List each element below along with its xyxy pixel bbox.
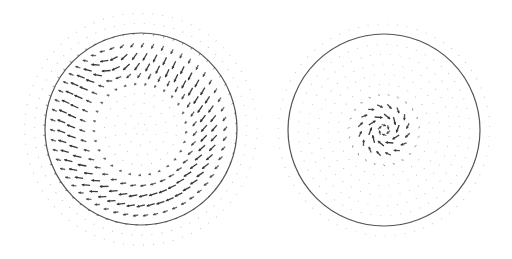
vector-arrow <box>387 34 388 35</box>
vector-arrow <box>390 195 391 196</box>
vector-field-figure <box>0 0 512 259</box>
vector-arrow <box>449 126 450 127</box>
vector-arrows <box>278 24 490 236</box>
vector-arrow <box>407 27 408 28</box>
vector-arrow <box>278 128 279 129</box>
vector-arrow <box>366 159 367 161</box>
vector-arrow <box>374 163 375 165</box>
vector-arrow <box>389 84 390 85</box>
vector-arrow <box>379 185 380 186</box>
arrow-head-icon <box>403 118 406 121</box>
vector-arrow <box>377 205 378 206</box>
vector-arrow <box>370 225 371 226</box>
vector-arrow <box>479 133 480 134</box>
vector-arrow <box>488 146 489 147</box>
vector-arrow <box>368 204 369 205</box>
vector-arrow <box>418 136 420 138</box>
vector-arrow <box>385 236 386 237</box>
vector-arrow <box>380 54 381 55</box>
vector-arrow <box>459 136 460 137</box>
vector-arrow <box>419 126 420 128</box>
vector-arrow <box>383 165 385 166</box>
vector-arrow <box>360 223 361 224</box>
arrow-head-icon <box>380 116 383 119</box>
vector-arrow <box>377 44 378 45</box>
vector-arrow <box>394 75 395 76</box>
arrow-head-icon <box>394 149 397 152</box>
vector-arrow <box>378 95 380 96</box>
vector-arrow <box>279 119 280 120</box>
vector-arrow <box>397 25 398 26</box>
vector-arrow <box>390 225 391 226</box>
vector-arrow <box>389 185 390 186</box>
vector-arrow <box>393 65 394 66</box>
vector-arrow <box>397 45 398 46</box>
vector-arrow <box>339 122 340 123</box>
vector-arrow <box>439 132 440 133</box>
vector-arrow <box>319 118 320 119</box>
vector-arrow <box>391 215 392 216</box>
vector-arrow <box>288 136 289 137</box>
vector-arrow <box>417 117 418 119</box>
vector-arrow <box>289 116 290 117</box>
vector-arrow <box>393 164 395 165</box>
vector-arrow <box>468 148 469 149</box>
vector-arrow <box>349 136 350 138</box>
vector-arrow <box>406 101 407 103</box>
vector-arrow <box>383 176 384 177</box>
vector-arrow <box>384 74 385 75</box>
vector-arrow <box>390 54 391 55</box>
vector-arrow <box>414 146 416 147</box>
vector-arrow <box>369 97 371 98</box>
vector-arrow <box>318 128 319 129</box>
vector-arrow <box>459 126 460 127</box>
vector-arrow <box>388 24 389 25</box>
vector-arrow <box>308 123 309 124</box>
vector-arrow <box>397 35 398 36</box>
vector-arrow <box>469 138 470 139</box>
vector-arrow <box>298 122 299 123</box>
vector-arrow <box>350 118 352 119</box>
boundary-circle <box>288 34 480 226</box>
vector-arrow <box>470 128 471 129</box>
vector-arrow <box>395 235 396 236</box>
vector-arrow <box>381 215 382 216</box>
vector-arrow <box>354 110 356 111</box>
vector-arrow <box>378 24 379 25</box>
vector-arrow <box>329 122 330 123</box>
vector-arrow <box>429 133 430 134</box>
vector-arrow <box>370 194 371 195</box>
vector-arrow <box>479 123 480 124</box>
vector-arrow <box>380 225 381 226</box>
vector-arrow <box>380 195 381 196</box>
vector-arrow <box>308 133 309 134</box>
vector-arrow <box>288 126 289 127</box>
vector-arrow <box>383 64 384 65</box>
arrow-head-icon <box>372 108 375 111</box>
vector-arrow <box>387 44 388 45</box>
vector-arrow <box>280 109 281 110</box>
vector-arrow <box>283 99 284 100</box>
vector-arrow <box>489 136 490 137</box>
vector-arrow <box>479 143 480 144</box>
arrow-head-icon <box>385 141 388 144</box>
vector-arrow <box>348 127 350 129</box>
vector-arrow <box>310 114 311 115</box>
vector-arrow <box>458 146 459 147</box>
vector-arrow <box>400 56 401 57</box>
vector-arrow <box>477 153 478 154</box>
vector-arrow <box>365 234 366 235</box>
vector-arrow <box>377 34 378 35</box>
arrow-head-icon <box>362 140 365 143</box>
vector-arrow <box>291 106 292 107</box>
vector-arrow <box>388 94 390 96</box>
vector-arrow <box>449 136 450 137</box>
vector-arrow <box>489 126 490 127</box>
vector-arrow <box>300 112 301 113</box>
vector-arrow <box>375 235 376 236</box>
vector-arrow <box>371 214 372 215</box>
vector-arrow <box>387 205 388 206</box>
right-vector-field-panel <box>0 0 512 259</box>
vector-arrow <box>397 97 398 99</box>
vector-arrow <box>298 132 299 133</box>
